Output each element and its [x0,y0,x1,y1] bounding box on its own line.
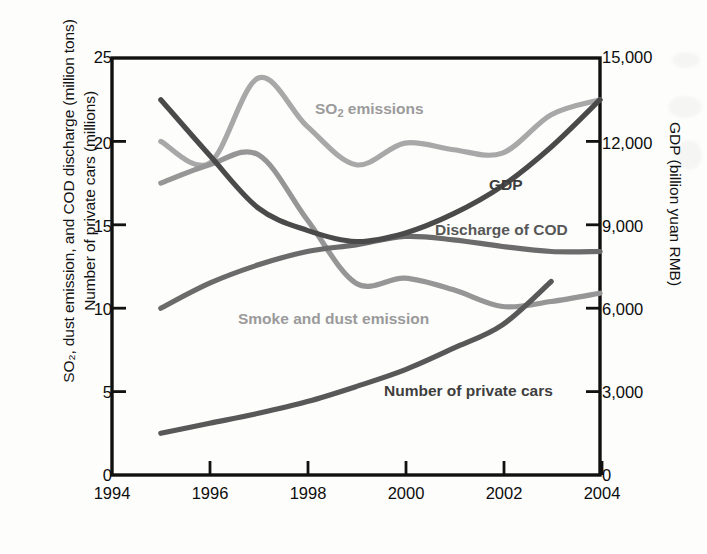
plot-area [0,0,707,554]
series-label-cod: Discharge of COD [435,221,568,239]
left-tick-marks [112,141,126,391]
series-label-so2-subscript: 2 [337,107,343,119]
chart-figure: SO₂, dust emission, and COD discharge (m… [0,0,707,554]
data-curves [161,77,600,433]
series-label-so2: SO2 emissions [315,100,424,118]
series-line-so-emissions [161,77,600,165]
axis-frame [112,58,600,475]
series-label-cars: Number of private cars [384,382,553,400]
series-label-smoke: Smoke and dust emission [238,310,429,328]
x-tick-marks [210,461,602,475]
series-label-so2-tail: emissions [344,100,424,117]
right-tick-marks [586,141,600,391]
series-label-gdp: GDP [489,176,523,194]
series-label-so2-text: SO [315,100,337,117]
